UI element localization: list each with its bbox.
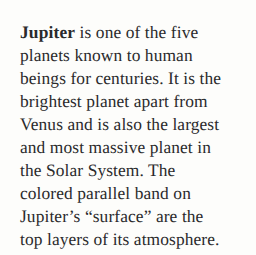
text-line-9: Jupiter’s “surface” are the bbox=[20, 205, 244, 228]
text-line-5: Venus and is also the largest bbox=[20, 113, 244, 136]
text-line-6: and most massive planet in bbox=[20, 136, 244, 159]
text-line-8: colored parallel band on bbox=[20, 182, 244, 205]
text-line-1-rest: is one of the five bbox=[75, 22, 198, 42]
text-line-7: the Solar System. The bbox=[20, 159, 244, 182]
text-line-4: brightest planet apart from bbox=[20, 90, 244, 113]
page-canvas: Jupiter is one of the five planets known… bbox=[0, 0, 256, 255]
lead-word-jupiter: Jupiter bbox=[20, 22, 75, 42]
text-line-2: planets known to human bbox=[20, 44, 244, 67]
text-line-10: top layers of its atmosphere. bbox=[20, 228, 244, 251]
text-line-3: beings for centuries. It is the bbox=[20, 67, 244, 90]
jupiter-passage: Jupiter is one of the five planets known… bbox=[20, 21, 244, 250]
text-line-1: Jupiter is one of the five bbox=[20, 21, 244, 44]
